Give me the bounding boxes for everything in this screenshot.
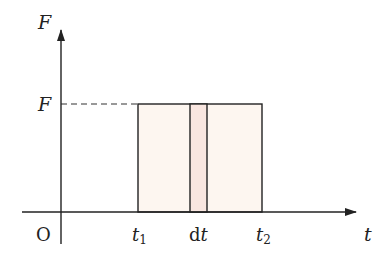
force-level-label: F	[37, 93, 52, 115]
tick-dt: dt	[189, 224, 209, 245]
force-time-diagram: F F O t t1 dt t2	[0, 0, 386, 254]
tick-t2: t2	[256, 224, 271, 247]
x-axis-label: t	[364, 223, 372, 245]
y-axis-label: F	[37, 11, 52, 33]
tick-t1: t1	[132, 224, 147, 247]
origin-label: O	[36, 224, 51, 245]
dt-strip	[190, 104, 207, 212]
